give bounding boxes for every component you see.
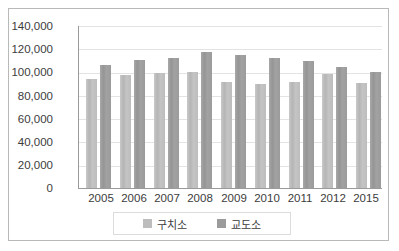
series-1-swatch-icon <box>143 219 152 228</box>
bar-2011-series-1[interactable] <box>289 82 300 188</box>
bar-2005-series-1[interactable] <box>86 79 97 188</box>
bar-group <box>118 26 152 188</box>
y-axis-tick-label: 20,000 <box>0 160 53 171</box>
bar-2015-series-1[interactable] <box>356 83 367 188</box>
bar-2008-series-2[interactable] <box>201 52 212 188</box>
bar-2005-series-2[interactable] <box>100 65 111 188</box>
bar-group <box>84 26 118 188</box>
y-axis-tick-label: 120,000 <box>0 44 53 55</box>
bar-2011-series-2[interactable] <box>303 61 314 188</box>
bar-2015-series-2[interactable] <box>370 72 381 188</box>
series-2-swatch-icon <box>217 219 226 228</box>
y-axis-tick-label: 0 <box>0 183 53 194</box>
bar-group <box>185 26 219 188</box>
chart-legend: 구치소 교도소 <box>113 212 291 235</box>
bar-group <box>219 26 253 188</box>
bar-2007-series-1[interactable] <box>154 73 165 188</box>
plot-area <box>78 26 382 189</box>
legend-item-series-2[interactable]: 교도소 <box>217 216 261 232</box>
legend-item-series-1[interactable]: 구치소 <box>143 216 187 232</box>
bar-2010-series-2[interactable] <box>269 58 280 188</box>
x-axis-tick-label: 2015 <box>346 192 386 204</box>
bar-2012-series-2[interactable] <box>336 67 347 188</box>
bar-2007-series-2[interactable] <box>168 58 179 188</box>
bar-group <box>152 26 186 188</box>
bar-2010-series-1[interactable] <box>255 84 266 188</box>
y-axis-tick-label: 100,000 <box>0 67 53 78</box>
bar-2009-series-2[interactable] <box>235 55 246 188</box>
bar-group <box>354 26 388 188</box>
bar-2012-series-1[interactable] <box>322 74 333 188</box>
bar-group <box>287 26 321 188</box>
y-axis-tick-label: 80,000 <box>0 91 53 102</box>
bar-2006-series-1[interactable] <box>120 75 131 188</box>
bar-2009-series-1[interactable] <box>221 82 232 188</box>
y-axis-tick-label: 60,000 <box>0 114 53 125</box>
bar-group <box>320 26 354 188</box>
legend-item-label: 교도소 <box>231 216 261 232</box>
bar-2008-series-1[interactable] <box>187 72 198 188</box>
y-axis-tick-label: 140,000 <box>0 21 53 32</box>
bar-2006-series-2[interactable] <box>134 60 145 188</box>
bar-group <box>253 26 287 188</box>
legend-item-label: 구치소 <box>157 216 187 232</box>
chart-container: 140,000 120,000 100,000 80,000 60,000 40… <box>8 8 389 241</box>
y-axis-tick-label: 40,000 <box>0 137 53 148</box>
